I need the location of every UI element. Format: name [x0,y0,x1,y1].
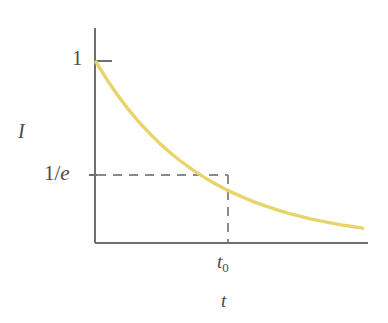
y-tick-label-one: 1 [72,48,83,69]
x-axis-title: t [221,291,226,310]
one-over-e-numerator: 1/ [44,161,60,185]
y-axis-title: I [18,121,25,141]
x-tick-label-t-zero: t0 [217,252,229,274]
one-over-e-euler: e [60,161,69,185]
exponential-decay-curve [96,62,363,228]
t-zero-subscript: 0 [222,260,229,275]
figure-container: 1 1/e I t0 t [0,0,388,323]
y-tick-label-one-over-e: 1/e [44,163,70,184]
